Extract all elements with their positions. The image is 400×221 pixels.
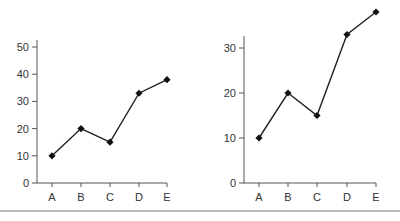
x-tick-label: B	[284, 191, 291, 203]
y-tick-label: 40	[17, 68, 29, 80]
charts-figure: 01020304050ABCDE 0102030ABCDE	[0, 0, 400, 221]
y-tick-label: 10	[224, 132, 236, 144]
diamond-marker-icon	[163, 76, 170, 83]
x-tick-label: C	[313, 191, 321, 203]
y-tick-label: 50	[17, 41, 29, 53]
left-line-chart: 01020304050ABCDE	[17, 40, 171, 203]
right-line-chart: 0102030ABCDE	[224, 8, 380, 203]
y-tick-label: 20	[224, 87, 236, 99]
y-tick-label: 0	[23, 177, 29, 189]
y-tick-label: 30	[17, 95, 29, 107]
x-tick-label: E	[372, 191, 379, 203]
y-tick-label: 0	[230, 177, 236, 189]
y-tick-label: 30	[224, 42, 236, 54]
x-tick-label: D	[135, 191, 143, 203]
x-tick-label: D	[343, 191, 351, 203]
x-tick-label: A	[255, 191, 263, 203]
x-tick-label: E	[163, 191, 170, 203]
x-tick-label: C	[106, 191, 114, 203]
y-tick-label: 20	[17, 123, 29, 135]
diamond-marker-icon	[135, 90, 142, 97]
diamond-marker-icon	[106, 139, 113, 146]
diamond-marker-icon	[255, 134, 262, 141]
y-tick-label: 10	[17, 150, 29, 162]
x-tick-label: A	[48, 191, 56, 203]
x-tick-label: B	[77, 191, 84, 203]
data-line	[259, 12, 376, 138]
